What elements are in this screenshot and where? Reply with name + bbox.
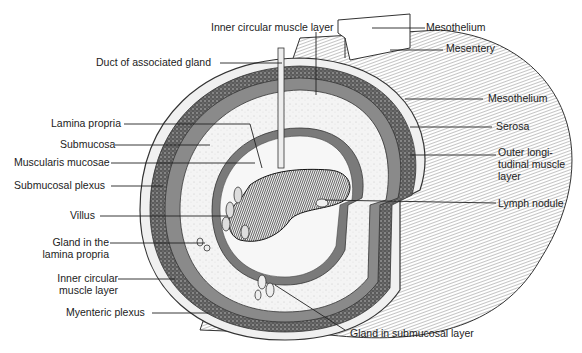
label-submucosal-plexus: Submucosal plexus <box>14 179 105 191</box>
label-lamina-propria: Lamina propria <box>51 117 121 129</box>
label-line-1: Inner circular <box>46 272 118 284</box>
label-gland-in-lamina-propria: Gland in the lamina propria <box>37 236 109 260</box>
label-muscularis-mucosae: Muscularis mucosae <box>14 156 110 168</box>
label-submucosa: Submucosa <box>60 138 115 150</box>
label-serosa: Serosa <box>496 120 529 132</box>
label-lymph-nodule: Lymph nodule <box>498 197 564 209</box>
label-villus: Villus <box>70 209 95 221</box>
label-inner-circular-muscle-layer-top: Inner circular muscle layer <box>211 21 334 33</box>
duct-tube <box>278 48 284 168</box>
label-line-2: muscle layer <box>46 284 118 296</box>
label-gland-in-submucosal-layer: Gland in submucosal layer <box>350 327 474 339</box>
label-line-1: Outer longi- <box>498 146 565 158</box>
label-duct-of-associated-gland: Duct of associated gland <box>96 56 211 68</box>
label-mesothelium: Mesothelium <box>488 92 548 104</box>
label-mesentery: Mesentery <box>446 42 495 54</box>
label-line-1: Gland in the <box>37 236 109 248</box>
label-line-3: layer <box>498 170 565 182</box>
gut-wall-diagram: Inner circular muscle layer Duct of asso… <box>0 0 582 353</box>
label-myenteric-plexus: Myenteric plexus <box>66 306 145 318</box>
label-inner-circular-muscle-layer: Inner circular muscle layer <box>46 272 118 296</box>
label-line-2: tudinal muscle <box>498 158 565 170</box>
label-outer-longitudinal-muscle-layer: Outer longi- tudinal muscle layer <box>498 146 565 182</box>
label-mesothelium-top: Mesothelium <box>426 21 486 33</box>
label-line-2: lamina propria <box>37 248 109 260</box>
